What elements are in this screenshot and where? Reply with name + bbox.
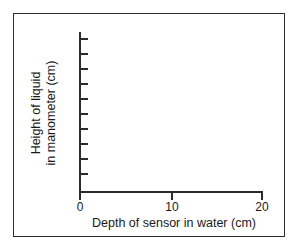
figure-container: 0 10 20 Depth of sensor in water (cm) He… [0, 0, 298, 251]
y-axis-tick [81, 38, 88, 40]
y-axis-tick [81, 68, 88, 70]
y-axis-tick [81, 53, 88, 55]
x-axis-tick-10 [171, 193, 173, 200]
y-axis-tick [81, 143, 88, 145]
x-axis-tick-label-0: 0 [63, 200, 97, 214]
y-axis-tick [81, 98, 88, 100]
y-axis-tick [81, 173, 88, 175]
y-axis-title-line-1: Height of liquid [29, 33, 44, 193]
x-axis-tick-20 [261, 193, 263, 200]
y-axis-tick [81, 113, 88, 115]
x-axis-title: Depth of sensor in water (cm) [79, 216, 269, 231]
y-axis-tick [81, 158, 88, 160]
x-axis-tick-0 [79, 193, 81, 200]
y-axis-tick [81, 128, 88, 130]
y-axis-tick [81, 83, 88, 85]
plot-area [79, 32, 263, 193]
y-axis-title: Height of liquid in manometer (cm) [29, 33, 59, 193]
x-axis-tick-label-20: 20 [245, 200, 279, 214]
y-axis-title-line-2: in manometer (cm) [44, 33, 59, 193]
x-axis-tick-label-10: 10 [155, 200, 189, 214]
